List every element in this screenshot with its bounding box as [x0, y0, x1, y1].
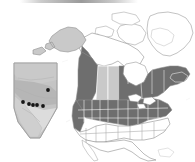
sampling-site-point [27, 102, 31, 106]
sampling-site-point [21, 100, 25, 104]
region-saskatchewan [108, 66, 119, 100]
alberta-inset-map [14, 63, 57, 138]
water-caribbean-outline [158, 148, 174, 157]
sampling-site-point [41, 104, 45, 108]
sampling-site-point [35, 103, 39, 107]
region-greenland [147, 12, 193, 56]
map-canvas [0, 0, 195, 162]
sampling-site-point [31, 103, 35, 107]
sampling-site-point [46, 88, 50, 92]
map-figure [0, 0, 195, 162]
region-alaska [33, 27, 86, 55]
region-alberta [96, 66, 108, 100]
region-ellesmere-island [112, 12, 140, 25]
